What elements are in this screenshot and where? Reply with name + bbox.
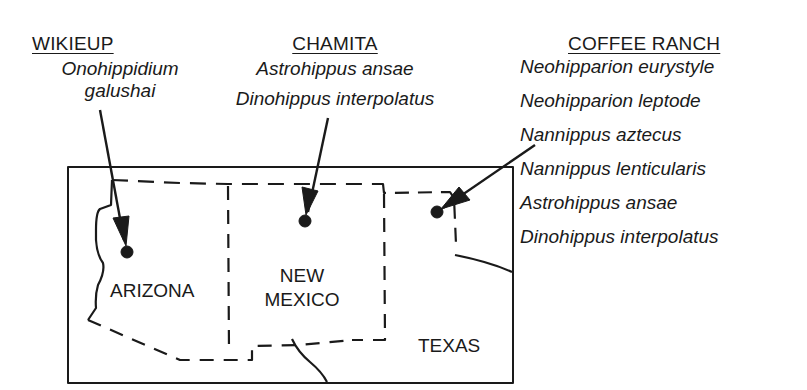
state-label-arizona: ARIZONA xyxy=(110,279,194,303)
arizona-south-border xyxy=(88,320,352,360)
site-dot-chamita xyxy=(299,215,311,227)
state-label-new-mexico: NEW MEXICO xyxy=(262,264,342,312)
rio-grande xyxy=(292,339,327,382)
site-dot-coffee-ranch xyxy=(431,206,443,218)
site-dot-wikieup xyxy=(121,246,133,258)
arrow-head-wikieup xyxy=(113,216,129,246)
red-river xyxy=(455,255,512,272)
arizona-west-border xyxy=(88,180,112,320)
az-nm-border xyxy=(228,186,229,352)
state-label-new-mexico-line2: MEXICO xyxy=(262,288,342,312)
state-label-texas: TEXAS xyxy=(418,334,480,358)
arrow-head-coffee-ranch xyxy=(441,187,470,209)
state-label-new-mexico-line1: NEW xyxy=(262,264,342,288)
north-border xyxy=(112,180,380,184)
nm-tx-border xyxy=(352,194,385,340)
region-map xyxy=(0,0,807,390)
arrow-head-chamita xyxy=(302,187,318,215)
oklahoma-step xyxy=(380,184,456,244)
